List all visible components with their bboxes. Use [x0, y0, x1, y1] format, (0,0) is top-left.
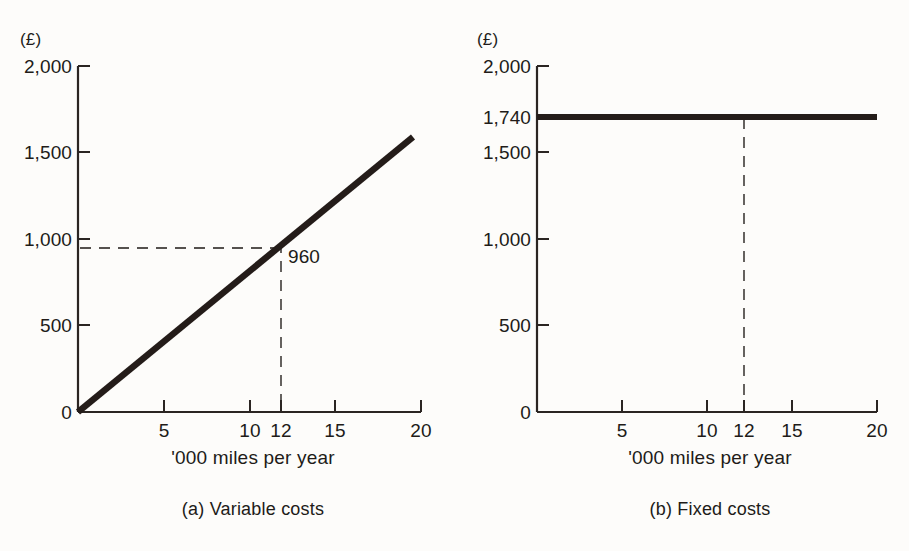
y-tick-label-500-a: 500	[40, 316, 72, 335]
panel-caption-a: (a) Variable costs	[182, 500, 324, 518]
y-tick-label-2000-a: 2,000	[24, 57, 72, 76]
y-tick-label-0-b: 0	[520, 403, 531, 422]
y-tick-label-1500-b: 1,500	[483, 143, 531, 162]
y-tick-label-500-b: 500	[499, 316, 531, 335]
x-axis-title-b: '000 miles per year	[628, 448, 792, 467]
chart-panel-variable-costs: (£) 2,000 1,500 1,000 500 0 5 10 12 15 2…	[0, 0, 455, 551]
x-tick-label-5-b: 5	[617, 421, 628, 440]
y-axis-unit-label-a: (£)	[20, 31, 41, 48]
y-tick-label-1000-a: 1,000	[24, 230, 72, 249]
x-tick-label-15-a: 15	[324, 421, 345, 440]
figure-root: (£) 2,000 1,500 1,000 500 0 5 10 12 15 2…	[0, 0, 909, 551]
x-tick-label-12-a: 12	[270, 421, 291, 440]
y-tick-label-2000-b: 2,000	[483, 57, 531, 76]
x-tick-label-20-a: 20	[410, 421, 431, 440]
x-tick-label-12-b: 12	[733, 421, 754, 440]
data-line-variable-costs	[78, 137, 413, 412]
y-tick-label-1000-b: 1,000	[483, 230, 531, 249]
y-tick-label-1740-b: 1,740	[483, 108, 531, 127]
x-tick-label-10-a: 10	[239, 421, 260, 440]
chart-b-graphics	[455, 0, 909, 551]
panel-caption-b: (b) Fixed costs	[649, 500, 770, 518]
chart-panel-fixed-costs: (£) 2,000 1,740 1,500 1,000 500 0 5 10 1…	[455, 0, 909, 551]
x-tick-label-20-b: 20	[866, 421, 887, 440]
y-tick-label-0-a: 0	[61, 403, 72, 422]
y-axis-unit-label-b: (£)	[477, 31, 498, 48]
x-axis-title-a: '000 miles per year	[171, 448, 335, 467]
y-tick-label-1500-a: 1,500	[24, 143, 72, 162]
x-tick-label-15-b: 15	[781, 421, 802, 440]
x-tick-label-5-a: 5	[159, 421, 170, 440]
chart-a-graphics	[0, 0, 455, 551]
x-tick-label-10-b: 10	[696, 421, 717, 440]
annotation-label-960: 960	[288, 247, 320, 266]
